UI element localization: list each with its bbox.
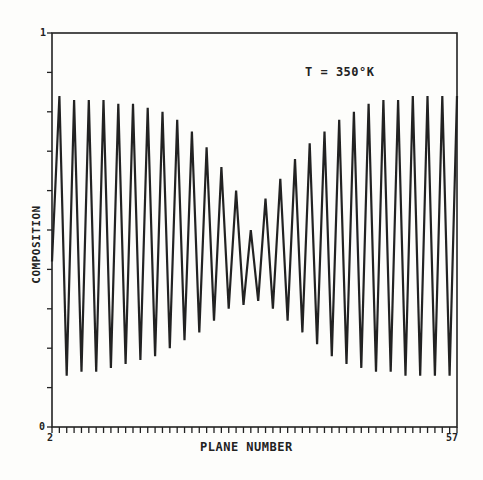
x-tick-max: 57	[446, 432, 458, 443]
plot-frame	[52, 33, 457, 427]
x-tick-min: 2	[47, 432, 53, 443]
x-axis-label: PLANE NUMBER	[200, 440, 293, 454]
y-axis-label: COMPOSITION	[30, 195, 43, 295]
y-tick-min: 0	[39, 421, 45, 432]
y-tick-max: 1	[40, 27, 46, 38]
composition-line	[52, 96, 457, 376]
composition-chart	[0, 0, 483, 480]
chart-annotation-temperature: T = 350°K	[305, 65, 375, 79]
